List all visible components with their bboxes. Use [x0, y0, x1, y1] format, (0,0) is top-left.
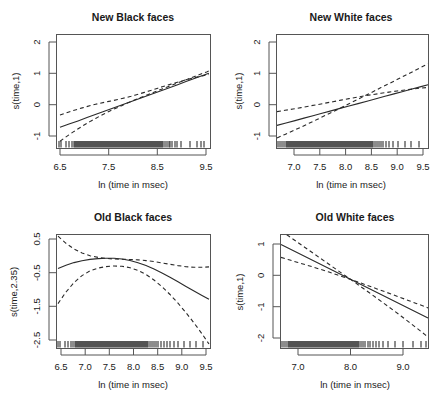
panel-old-black: Old Black faces s(time,2.35) 0.5 -0.5 -1…	[0, 199, 223, 399]
x-tick-label: 9.0	[396, 361, 409, 372]
x-tick-label: 6.5	[54, 361, 67, 372]
x-ticks	[294, 148, 423, 155]
plot-box	[277, 35, 429, 149]
y-tick-label: -2.5	[31, 332, 42, 348]
gam-partial-effect-figure: New Black faces s(time,1) 2 1 0 -1	[0, 0, 446, 399]
x-tick-label: 8.5	[365, 161, 378, 172]
plot-box	[281, 235, 429, 349]
panel-old-white: Old White faces s(time,1) 1 0 -1 -2 7.0 …	[223, 199, 446, 399]
x-tick-label: 6.5	[53, 161, 66, 172]
x-tick-label: 8.0	[344, 361, 357, 372]
x-tick-label: 7.0	[79, 361, 92, 372]
panel-title: Old Black faces	[94, 211, 172, 223]
y-tick-label: 2	[31, 39, 42, 44]
plot-box	[57, 235, 211, 349]
y-ticks	[49, 239, 56, 340]
y-tick-label: -1	[255, 302, 266, 310]
rug-marks	[58, 341, 203, 348]
upper-ci-curve	[281, 257, 428, 308]
x-axis-label: ln (time in msec)	[320, 379, 390, 390]
fit-curve	[281, 245, 428, 319]
y-axis-label: s(time,2.35)	[8, 267, 19, 317]
x-tick-label: 7.5	[102, 161, 115, 172]
rug-marks	[282, 341, 426, 348]
y-axis-label: s(time,1)	[233, 73, 244, 110]
upper-ci-curve	[58, 236, 209, 267]
y-tick-label: 1	[31, 71, 42, 76]
plot-box	[57, 35, 211, 149]
x-tick-label: 9.0	[391, 161, 404, 172]
x-axis-label: ln (time in msec)	[98, 179, 168, 190]
x-tick-label: 7.5	[103, 361, 116, 372]
panel-new-black: New Black faces s(time,1) 2 1 0 -1	[0, 0, 223, 199]
lower-ci-curve	[277, 64, 428, 138]
y-tick-label: 0	[255, 273, 266, 278]
y-tick-label: 0	[251, 102, 262, 107]
y-tick-label: 0.5	[31, 232, 42, 245]
y-tick-label: 2	[251, 39, 262, 44]
panel-title: New White faces	[310, 11, 393, 23]
fit-curve	[58, 258, 209, 299]
y-tick-label: 1	[251, 71, 262, 76]
y-tick-label: -0.5	[31, 265, 42, 281]
y-tick-label: 1	[255, 241, 266, 246]
y-tick-label: -1	[31, 132, 42, 140]
x-ticks	[298, 348, 403, 355]
fit-curve	[277, 85, 428, 126]
x-tick-label: 8.0	[339, 161, 352, 172]
x-axis-label: ln (time in msec)	[316, 179, 386, 190]
y-tick-label: -1.5	[31, 298, 42, 314]
x-ticks	[60, 148, 206, 155]
panel-title: New Black faces	[92, 11, 174, 23]
y-tick-label: -2	[255, 334, 266, 342]
x-axis-label: ln (time in msec)	[98, 379, 168, 390]
x-tick-label: 9.0	[175, 361, 188, 372]
x-tick-label: 9.5	[199, 361, 212, 372]
x-tick-label: 8.5	[151, 161, 164, 172]
x-tick-label: 7.0	[287, 161, 300, 172]
x-tick-label: 7.5	[313, 161, 326, 172]
panel-title: Old White faces	[316, 211, 395, 223]
x-tick-label: 8.5	[151, 361, 164, 372]
rug-marks	[59, 141, 204, 148]
y-ticks	[49, 42, 56, 136]
x-tick-label: 9.5	[416, 161, 429, 172]
y-axis-label: s(time,1)	[10, 73, 21, 110]
lower-ci-curve	[281, 231, 428, 337]
x-tick-label: 7.0	[291, 361, 304, 372]
x-tick-label: 8.0	[127, 361, 140, 372]
y-tick-label: -1	[251, 132, 262, 140]
y-axis-label: s(time,1)	[234, 274, 245, 311]
x-tick-label: 9.5	[199, 161, 212, 172]
panel-new-white: New White faces s(time,1) 2 1 0 -1	[223, 0, 446, 199]
x-ticks	[61, 348, 206, 355]
rug-marks	[278, 141, 419, 148]
y-ticks	[269, 42, 276, 136]
lower-ci-curve	[58, 266, 209, 344]
y-tick-label: 0	[31, 102, 42, 107]
y-ticks	[273, 244, 280, 338]
upper-ci-curve	[60, 75, 209, 116]
